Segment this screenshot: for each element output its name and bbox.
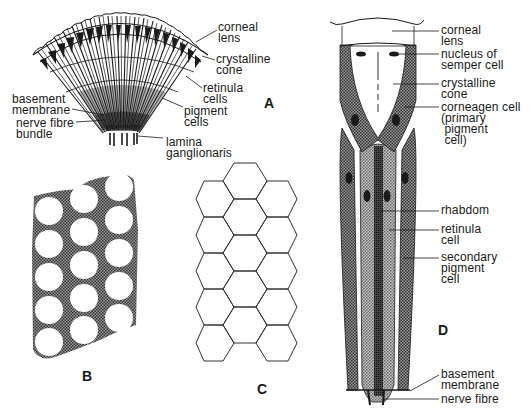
- label-a-corneal-lens: corneal lens: [218, 22, 258, 44]
- label-d-crystalline-cone: crystalline cone: [441, 78, 495, 100]
- label-d-corneagen-cell: corneagen cell (primary pigment cell): [441, 102, 520, 146]
- label-a-lamina-ganglionaris: lamina ganglionaris: [166, 137, 232, 159]
- label-d-nerve-fibre: nerve fibre: [441, 394, 499, 405]
- label-d-rhabdom: rhabdom: [441, 205, 489, 216]
- panel-letter-a: A: [264, 95, 274, 111]
- panel-letter-c: C: [257, 381, 267, 397]
- label-d-retinula-cell: retinula cell: [441, 224, 481, 246]
- panel-letter-d: D: [438, 322, 448, 338]
- panel-b-diagram: [32, 173, 138, 358]
- label-a-crystalline-cone: crystalline cone: [216, 54, 270, 76]
- panel-c-diagram: [196, 163, 297, 361]
- label-a-basement-membrane: basement membrane: [12, 94, 70, 116]
- label-d-corneal-lens: corneal lens: [441, 25, 481, 47]
- label-d-secondary-pigment-cell: secondary pigment cell: [441, 252, 497, 285]
- panel-letter-b: B: [82, 368, 92, 384]
- label-a-nerve-fibre-bundle: nerve fibre bundle: [16, 118, 74, 140]
- label-a-retinula-cells: retinula cells: [203, 83, 243, 105]
- label-d-basement-membrane: basement membrane: [441, 369, 499, 391]
- panel-d-diagram: [330, 18, 439, 405]
- label-a-pigment-cells: pigment cells: [184, 106, 227, 128]
- label-d-nucleus-semper-cell: nucleus of semper cell: [441, 49, 503, 71]
